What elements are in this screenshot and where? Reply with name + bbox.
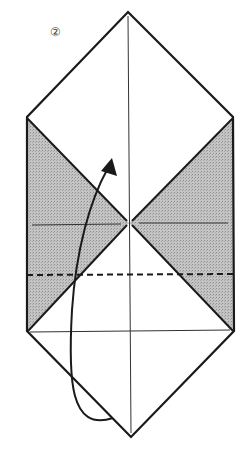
- arrow-head-icon: [101, 158, 117, 176]
- step-number: ②: [50, 25, 61, 39]
- valley-fold-line: [27, 274, 233, 275]
- right-shaded-flap: [129, 118, 233, 331]
- origami-diagram: ②: [0, 0, 249, 463]
